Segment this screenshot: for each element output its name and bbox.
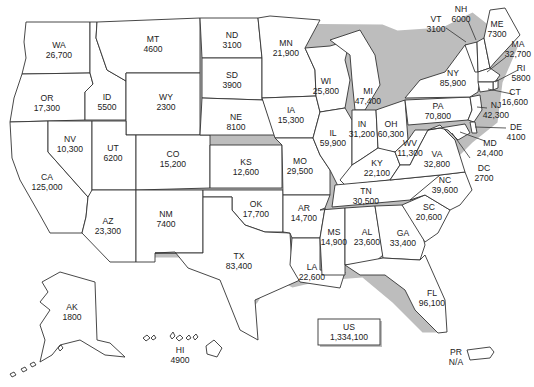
label-HI-abbr: HI [176,345,185,355]
label-KS-abbr: KS [240,157,252,167]
svg-text:NH6000: NH6000 [451,4,470,24]
label-PA-abbr: PA [433,101,444,111]
label-MN-abbr: MN [279,38,292,48]
label-IA-abbr: IA [287,105,295,115]
label-IN-value: 31,200 [349,129,376,139]
label-WI-abbr: WI [321,76,332,86]
label-MA-value: 32,700 [505,49,532,59]
label-US-abbr: US [343,322,355,332]
label-IL-value: 59,900 [320,138,347,148]
label-NM-abbr: NM [159,209,172,219]
label-ME-value: 7300 [487,29,506,39]
label-WA-abbr: WA [52,40,66,50]
label-LA-value: 22,600 [299,272,326,282]
label-SD-value: 3900 [222,80,241,90]
label-MD-abbr: MD [483,138,496,148]
label-CT-abbr: CT [509,87,521,97]
label-AZ-value: 23,300 [95,226,122,236]
svg-text:CT16,600: CT16,600 [502,87,529,107]
label-CA-abbr: CA [41,172,53,182]
label-DC-abbr: DC [478,163,490,173]
label-WY-abbr: WY [159,92,173,102]
label-KS-value: 12,600 [233,167,260,177]
label-VA-abbr: VA [432,149,443,159]
state-CT[interactable] [478,82,493,92]
label-WI-value: 25,800 [313,86,340,96]
label-NE-value: 8100 [226,122,245,132]
label-VA-value: 32,800 [424,159,451,169]
label-TN-value: 30,500 [353,196,380,206]
label-AR-value: 14,700 [291,213,318,223]
label-NH-abbr: NH [455,4,467,14]
svg-text:RI5800: RI5800 [511,63,530,83]
label-KY-value: 22,100 [364,168,391,178]
label-MO-abbr: MO [293,156,307,166]
label-DE-abbr: DE [510,122,522,132]
label-KY-abbr: KY [371,158,383,168]
label-MA-abbr: MA [512,39,525,49]
label-NE-abbr: NE [230,112,242,122]
label-OH-abbr: OH [385,119,398,129]
label-RI-abbr: RI [517,63,526,73]
label-GA-abbr: GA [397,228,410,238]
label-US-value: 1,334,100 [330,332,368,342]
label-IN-abbr: IN [358,119,367,129]
label-PA-value: 70,800 [425,111,452,121]
svg-text:HI4900: HI4900 [170,345,189,365]
label-NC-abbr: NC [439,175,451,185]
label-NJ-value: 42,300 [483,110,510,120]
label-IA-value: 15,300 [278,115,305,125]
label-NC-value: 39,600 [432,185,459,195]
svg-text:VT3100: VT3100 [426,14,445,34]
label-UT-abbr: UT [107,143,119,153]
svg-text:PRN/A: PRN/A [449,347,464,367]
label-NY-value: 85,900 [440,78,467,88]
territory-PR[interactable] [467,347,494,360]
label-TX-value: 83,400 [226,261,253,271]
label-CO-value: 15,200 [160,159,187,169]
label-FL-value: 96,100 [419,298,446,308]
label-NJ-abbr: NJ [491,100,502,110]
label-AK-value: 1800 [62,312,81,322]
label-CA-value: 125,000 [31,182,62,192]
label-ND-abbr: ND [226,30,238,40]
label-TN-abbr: TN [360,186,371,196]
label-MS-abbr: MS [328,227,341,237]
svg-text:DC2700: DC2700 [474,163,493,183]
label-MO-value: 29,500 [287,166,314,176]
label-SC-abbr: SC [423,202,435,212]
label-TX-abbr: TX [234,251,245,261]
label-CO-abbr: CO [167,149,180,159]
label-NM-value: 7400 [156,219,175,229]
label-ND-value: 3100 [222,40,241,50]
label-MT-value: 4600 [143,44,162,54]
label-HI-value: 4900 [170,355,189,365]
label-VT-value: 3100 [426,24,445,34]
state-AK[interactable] [40,272,125,362]
label-AL-value: 23,600 [354,237,381,247]
label-CT-value: 16,600 [502,97,529,107]
svg-text:WY2300: WY2300 [156,92,175,112]
label-ME-abbr: ME [491,19,504,29]
label-ID-abbr: ID [103,92,112,102]
label-UT-value: 6200 [103,153,122,163]
label-SC-value: 20,600 [416,212,443,222]
label-OH-value: 60,300 [378,129,405,139]
label-IL-abbr: IL [329,128,336,138]
label-NV-value: 10,300 [57,144,84,154]
label-AK-abbr: AK [66,302,78,312]
label-NY-abbr: NY [447,68,459,78]
label-GA-value: 33,400 [390,238,417,248]
label-MT-abbr: MT [147,34,160,44]
label-OK-abbr: OK [250,199,263,209]
us-map: WA26,700 OR17,300 CA125,000 ID5500 NV10,… [0,0,534,387]
label-FL-abbr: FL [427,288,437,298]
label-WY-value: 2300 [156,102,175,112]
label-VT-abbr: VT [431,14,443,24]
label-NV-abbr: NV [64,134,76,144]
label-OK-value: 17,700 [243,209,270,219]
label-DC-value: 2700 [474,173,493,183]
label-ID-value: 5500 [97,102,116,112]
label-WV-abbr: WV [403,138,417,148]
label-LA-abbr: LA [307,262,318,272]
